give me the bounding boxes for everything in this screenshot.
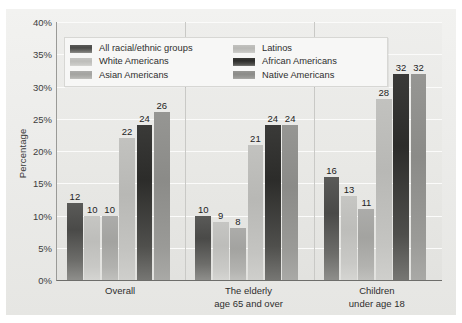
- legend-swatch: [233, 58, 255, 66]
- legend-item: African Americans: [233, 55, 385, 68]
- bar: 24: [282, 125, 298, 280]
- legend-column-right: LatinosAfrican AmericansNative Americans: [233, 42, 385, 82]
- x-axis-group-labels: OverallThe elderlyage 65 and overChildre…: [56, 285, 441, 323]
- bar: 24: [265, 125, 281, 280]
- x-axis-group-label: The elderlyage 65 and over: [184, 285, 312, 310]
- legend-swatch: [70, 71, 92, 79]
- bar: 9: [213, 222, 229, 280]
- legend-item: All racial/ethnic groups: [70, 42, 230, 55]
- bar-value-label: 13: [344, 184, 355, 195]
- bar: 26: [154, 112, 170, 280]
- y-axis-tick-label: 30%: [0, 81, 52, 92]
- bar: 32: [411, 74, 427, 280]
- y-axis-tick-label: 15%: [0, 178, 52, 189]
- legend-label: African Americans: [262, 57, 337, 66]
- bar: 32: [393, 74, 409, 280]
- bar-value-label: 28: [378, 87, 389, 98]
- bar-value-label: 24: [285, 113, 296, 124]
- y-axis-tick-label: 5%: [0, 242, 52, 253]
- legend-label: Latinos: [262, 44, 292, 53]
- legend-swatch: [70, 58, 92, 66]
- legend-item: White Americans: [70, 55, 230, 68]
- y-axis-tick-label: 10%: [0, 210, 52, 221]
- x-axis-group-label-line: The elderly: [184, 285, 312, 298]
- x-axis-group-label: Overall: [56, 285, 184, 298]
- y-axis-tick-label: 35%: [0, 49, 52, 60]
- bar-value-label: 32: [413, 62, 424, 73]
- x-axis-group-label-line: Overall: [56, 285, 184, 298]
- bar: 13: [341, 196, 357, 280]
- bar-value-label: 10: [104, 204, 115, 215]
- legend-item: Asian Americans: [70, 69, 230, 82]
- bar: 8: [230, 228, 246, 280]
- bar: 28: [376, 99, 392, 280]
- bar: 12: [67, 203, 83, 280]
- chart-legend: All racial/ethnic groupsWhite AmericansA…: [64, 37, 388, 87]
- bar-value-label: 12: [70, 191, 81, 202]
- bar-value-label: 10: [198, 204, 209, 215]
- bar-value-label: 22: [122, 126, 133, 137]
- legend-item: Latinos: [233, 42, 385, 55]
- x-axis-group-label-line: Children: [313, 285, 441, 298]
- bar-value-label: 9: [218, 210, 223, 221]
- y-axis-tick-label: 40%: [0, 17, 52, 28]
- bar: 10: [102, 216, 118, 281]
- bar-value-label: 21: [250, 133, 261, 144]
- bar: 10: [195, 216, 211, 281]
- legend-label: Native Americans: [262, 71, 334, 80]
- legend-swatch: [233, 71, 255, 79]
- legend-label: White Americans: [99, 57, 169, 66]
- x-axis-group-label-line: under age 18: [313, 298, 441, 311]
- bar: 10: [84, 216, 100, 281]
- bar-value-label: 32: [396, 62, 407, 73]
- bar-value-label: 8: [235, 216, 240, 227]
- bar-value-label: 10: [87, 204, 98, 215]
- bar-value-label: 24: [139, 113, 150, 124]
- legend-column-left: All racial/ethnic groupsWhite AmericansA…: [70, 42, 230, 82]
- bar-value-label: 16: [326, 165, 337, 176]
- y-axis-tick-labels: 0%5%10%15%20%25%30%35%40%: [0, 0, 52, 323]
- legend-label: Asian Americans: [99, 71, 168, 80]
- bar: 24: [137, 125, 153, 280]
- y-axis-tick-label: 0%: [0, 275, 52, 286]
- bar: 22: [119, 138, 135, 280]
- legend-swatch: [233, 45, 255, 53]
- y-axis-tick-label: 20%: [0, 146, 52, 157]
- x-axis-group-label-line: age 65 and over: [184, 298, 312, 311]
- bar: 16: [324, 177, 340, 280]
- legend-label: All racial/ethnic groups: [99, 44, 193, 53]
- bar-value-label: 11: [361, 197, 371, 208]
- legend-item: Native Americans: [233, 69, 385, 82]
- y-axis-tick-label: 25%: [0, 113, 52, 124]
- bar: 11: [358, 209, 374, 280]
- chart-figure: Percentage 0%5%10%15%20%25%30%35%40% 121…: [0, 0, 462, 323]
- bar-value-label: 26: [157, 100, 168, 111]
- legend-swatch: [70, 45, 92, 53]
- bar-value-label: 24: [267, 113, 278, 124]
- bar: 21: [248, 145, 264, 280]
- x-axis-group-label: Childrenunder age 18: [313, 285, 441, 310]
